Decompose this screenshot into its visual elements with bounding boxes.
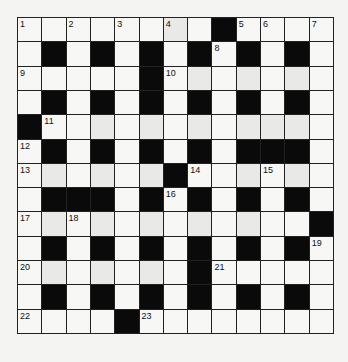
answer-cell[interactable]	[310, 140, 333, 163]
answer-cell[interactable]	[237, 310, 260, 333]
answer-cell[interactable]	[212, 285, 235, 308]
answer-cell[interactable]: 19	[310, 237, 333, 260]
answer-cell[interactable]	[164, 285, 187, 308]
answer-cell[interactable]	[310, 164, 333, 187]
answer-cell[interactable]	[115, 212, 138, 235]
answer-cell[interactable]	[18, 188, 41, 211]
answer-cell[interactable]	[164, 237, 187, 260]
answer-cell[interactable]	[164, 42, 187, 65]
answer-cell[interactable]	[91, 18, 114, 41]
answer-cell[interactable]	[67, 67, 90, 90]
answer-cell[interactable]: 7	[310, 18, 333, 41]
answer-cell[interactable]	[212, 91, 235, 114]
answer-cell[interactable]	[261, 310, 284, 333]
answer-cell[interactable]: 6	[261, 18, 284, 41]
answer-cell[interactable]	[188, 115, 211, 138]
answer-cell[interactable]	[67, 140, 90, 163]
answer-cell[interactable]	[285, 67, 308, 90]
answer-cell[interactable]	[91, 261, 114, 284]
answer-cell[interactable]	[285, 164, 308, 187]
answer-cell[interactable]: 13	[18, 164, 41, 187]
answer-cell[interactable]	[140, 261, 163, 284]
answer-cell[interactable]	[212, 310, 235, 333]
answer-cell[interactable]: 8	[212, 42, 235, 65]
answer-cell[interactable]	[140, 212, 163, 235]
answer-cell[interactable]	[188, 310, 211, 333]
answer-cell[interactable]	[310, 285, 333, 308]
answer-cell[interactable]: 3	[115, 18, 138, 41]
answer-cell[interactable]	[67, 115, 90, 138]
answer-cell[interactable]	[67, 261, 90, 284]
answer-cell[interactable]	[285, 212, 308, 235]
answer-cell[interactable]: 2	[67, 18, 90, 41]
answer-cell[interactable]	[18, 91, 41, 114]
answer-cell[interactable]	[140, 164, 163, 187]
answer-cell[interactable]	[67, 91, 90, 114]
answer-cell[interactable]	[91, 115, 114, 138]
answer-cell[interactable]	[140, 18, 163, 41]
answer-cell[interactable]: 16	[164, 188, 187, 211]
answer-cell[interactable]	[115, 285, 138, 308]
answer-cell[interactable]	[237, 164, 260, 187]
answer-cell[interactable]: 4	[164, 18, 187, 41]
answer-cell[interactable]	[164, 140, 187, 163]
answer-cell[interactable]: 22	[18, 310, 41, 333]
answer-cell[interactable]	[164, 261, 187, 284]
answer-cell[interactable]: 18	[67, 212, 90, 235]
answer-cell[interactable]	[310, 67, 333, 90]
answer-cell[interactable]	[91, 212, 114, 235]
answer-cell[interactable]	[310, 310, 333, 333]
answer-cell[interactable]: 11	[42, 115, 65, 138]
answer-cell[interactable]	[285, 261, 308, 284]
answer-cell[interactable]	[115, 67, 138, 90]
answer-cell[interactable]: 20	[18, 261, 41, 284]
answer-cell[interactable]	[261, 285, 284, 308]
answer-cell[interactable]: 15	[261, 164, 284, 187]
answer-cell[interactable]: 5	[237, 18, 260, 41]
answer-cell[interactable]: 14	[188, 164, 211, 187]
answer-cell[interactable]	[310, 115, 333, 138]
answer-cell[interactable]	[237, 212, 260, 235]
answer-cell[interactable]	[261, 91, 284, 114]
answer-cell[interactable]	[261, 42, 284, 65]
answer-cell[interactable]	[91, 164, 114, 187]
answer-cell[interactable]	[285, 18, 308, 41]
answer-cell[interactable]	[115, 188, 138, 211]
answer-cell[interactable]: 10	[164, 67, 187, 90]
answer-cell[interactable]	[310, 261, 333, 284]
answer-cell[interactable]	[188, 212, 211, 235]
answer-cell[interactable]	[67, 310, 90, 333]
answer-cell[interactable]	[164, 212, 187, 235]
answer-cell[interactable]	[310, 188, 333, 211]
answer-cell[interactable]	[285, 115, 308, 138]
answer-cell[interactable]	[115, 42, 138, 65]
answer-cell[interactable]	[18, 42, 41, 65]
answer-cell[interactable]	[164, 310, 187, 333]
answer-cell[interactable]	[261, 212, 284, 235]
answer-cell[interactable]	[42, 310, 65, 333]
answer-cell[interactable]: 21	[212, 261, 235, 284]
answer-cell[interactable]	[67, 42, 90, 65]
answer-cell[interactable]: 12	[18, 140, 41, 163]
answer-cell[interactable]	[188, 18, 211, 41]
answer-cell[interactable]	[237, 115, 260, 138]
answer-cell[interactable]	[212, 212, 235, 235]
answer-cell[interactable]	[212, 188, 235, 211]
answer-cell[interactable]	[115, 115, 138, 138]
answer-cell[interactable]	[42, 164, 65, 187]
answer-cell[interactable]	[42, 261, 65, 284]
answer-cell[interactable]	[212, 115, 235, 138]
answer-cell[interactable]	[285, 310, 308, 333]
answer-cell[interactable]	[67, 237, 90, 260]
answer-cell[interactable]	[188, 67, 211, 90]
answer-cell[interactable]	[18, 285, 41, 308]
answer-cell[interactable]	[67, 164, 90, 187]
answer-cell[interactable]	[91, 67, 114, 90]
answer-cell[interactable]	[261, 188, 284, 211]
answer-cell[interactable]	[212, 164, 235, 187]
answer-cell[interactable]	[18, 237, 41, 260]
answer-cell[interactable]: 23	[140, 310, 163, 333]
answer-cell[interactable]	[91, 310, 114, 333]
answer-cell[interactable]	[212, 237, 235, 260]
answer-cell[interactable]: 9	[18, 67, 41, 90]
